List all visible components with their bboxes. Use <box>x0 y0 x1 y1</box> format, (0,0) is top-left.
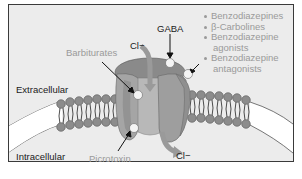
gaba-label: GABA <box>157 23 183 34</box>
lipid-bilayer-left <box>57 95 120 132</box>
benzodiazepine-ligand-list: Benzodiazepines β-Carbolines Benzodiazep… <box>204 11 283 74</box>
extracellular-label: Extracellular <box>16 84 68 95</box>
intracellular-label: Intracellular <box>16 151 65 162</box>
gaba-site <box>166 59 175 68</box>
cl-in-label: Cl− <box>130 40 145 51</box>
picrotoxin-label: Picrotoxin <box>89 153 131 164</box>
benzodiazepine-pointer <box>193 64 199 70</box>
barbiturate-site <box>134 91 143 100</box>
lipid-bilayer-right <box>188 91 251 129</box>
legend-item-antagonists-cont: antagonists <box>204 64 283 75</box>
barbiturates-label: Barbiturates <box>66 47 117 58</box>
picrotoxin-site <box>130 124 139 133</box>
cl-out-label: Cl− <box>176 150 191 161</box>
gaba-receptor-channel <box>115 58 190 142</box>
